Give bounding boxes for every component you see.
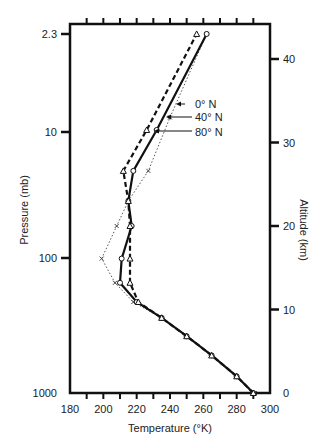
y-right-tick-label: 40	[283, 53, 295, 65]
x-tick-label: 300	[261, 403, 279, 415]
x-tick-label: 280	[227, 403, 245, 415]
annotation-80-n: 80° N	[154, 126, 223, 138]
y-right-tick-label: 0	[283, 387, 289, 399]
y-right-tick-label: 20	[283, 220, 295, 232]
series-40-n	[118, 31, 256, 395]
y-right-tick-label: 10	[283, 304, 295, 316]
y-left-tick-label: 100	[39, 252, 57, 264]
annotation-40-n: 40° N	[166, 111, 223, 123]
circle-marker	[204, 31, 209, 36]
annotation-label: 0° N	[195, 98, 217, 110]
data-series	[100, 31, 257, 396]
annotation-label: 40° N	[195, 111, 223, 123]
x-tick-label: 240	[161, 403, 179, 415]
x-tick-label: 260	[194, 403, 212, 415]
plot-frame	[70, 24, 270, 393]
temperature-profile-chart: 1802002202402602803002.31010010000102030…	[0, 0, 323, 446]
annotation-0-n: 0° N	[176, 98, 217, 110]
triangle-marker	[194, 31, 200, 37]
circle-marker	[131, 168, 136, 173]
annotation-label: 80° N	[195, 126, 223, 138]
circle-marker	[119, 256, 124, 261]
series-annotations: 0° N40° N80° N	[154, 98, 223, 138]
y-left-tick-label: 10	[45, 126, 57, 138]
y-right-tick-label: 30	[283, 137, 295, 149]
y-axis-right-label: Altitude (km)	[298, 199, 310, 261]
x-tick-label: 220	[127, 403, 145, 415]
x-tick-label: 180	[61, 403, 79, 415]
axis-ticks: 1802002202402602803002.31010010000102030…	[33, 18, 296, 415]
y-left-tick-label: 2.3	[42, 28, 57, 40]
triangle-marker	[127, 280, 133, 286]
y-axis-left-label: Pressure (mb)	[18, 175, 30, 245]
plot-border	[70, 24, 270, 393]
x-axis-label: Temperature (°K)	[128, 422, 212, 434]
circle-marker	[118, 280, 123, 285]
y-left-tick-label: 1000	[33, 387, 57, 399]
arrowhead-icon	[176, 102, 181, 107]
triangle-marker	[127, 256, 133, 262]
x-tick-label: 200	[94, 403, 112, 415]
series-80-n	[120, 31, 256, 396]
